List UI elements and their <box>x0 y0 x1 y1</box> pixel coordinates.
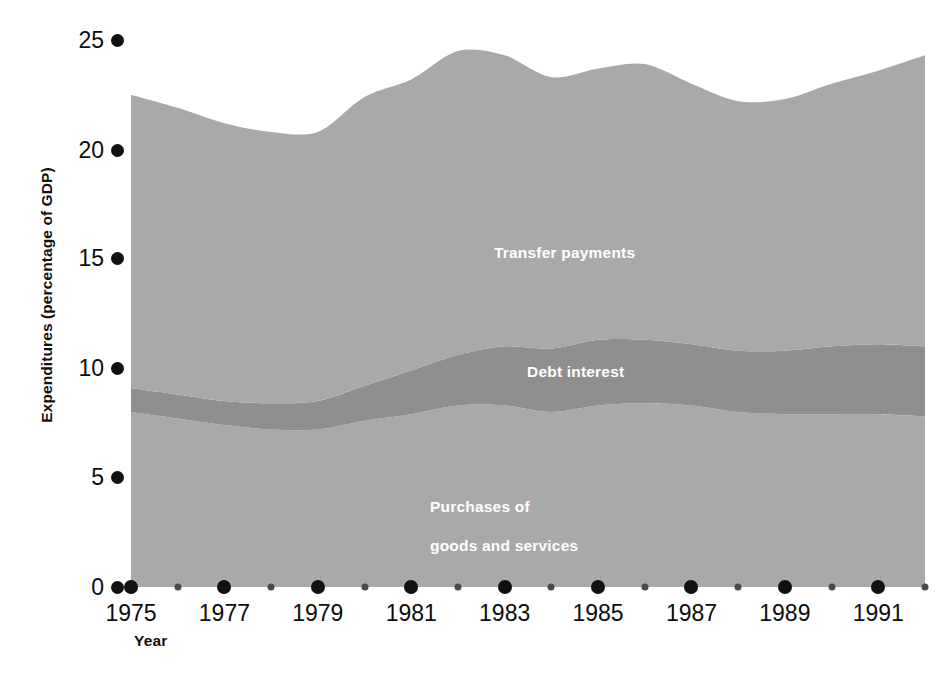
x-tick-label-1981: 1981 <box>386 600 437 627</box>
x-tick-label-1977: 1977 <box>199 600 250 627</box>
x-tick-minor-dot-icon-1988 <box>735 584 742 591</box>
x-tick-label-1979: 1979 <box>292 600 343 627</box>
x-tick-dot-icon-1991 <box>871 580 885 594</box>
x-tick-minor-dot-icon-1990 <box>828 584 835 591</box>
x-tick-minor-dot-icon-1992 <box>922 584 929 591</box>
x-tick-dot-icon-1983 <box>498 580 512 594</box>
x-tick-label-1983: 1983 <box>479 600 530 627</box>
x-axis: 197519771979198119831985198719891991 <box>0 0 946 673</box>
x-tick-dot-icon-1989 <box>778 580 792 594</box>
stacked-area-chart: 25 20 15 10 5 0 Expenditures (percentage… <box>0 0 946 673</box>
x-tick-label-1985: 1985 <box>572 600 623 627</box>
x-tick-dot-icon-1975 <box>124 580 138 594</box>
x-tick-label-1989: 1989 <box>759 600 810 627</box>
x-tick-dot-icon-1987 <box>684 580 698 594</box>
x-tick-dot-icon-1979 <box>311 580 325 594</box>
x-tick-minor-dot-icon-1980 <box>361 584 368 591</box>
x-tick-dot-icon-1977 <box>217 580 231 594</box>
x-tick-minor-dot-icon-1978 <box>268 584 275 591</box>
x-tick-dot-icon-1985 <box>591 580 605 594</box>
x-tick-dot-icon-1981 <box>404 580 418 594</box>
x-tick-minor-dot-icon-1984 <box>548 584 555 591</box>
x-tick-label-1987: 1987 <box>666 600 717 627</box>
x-axis-title: Year <box>134 632 168 650</box>
x-tick-label-1991: 1991 <box>853 600 904 627</box>
x-tick-minor-dot-icon-1986 <box>641 584 648 591</box>
x-tick-minor-dot-icon-1982 <box>454 584 461 591</box>
x-tick-minor-dot-icon-1976 <box>174 584 181 591</box>
x-tick-label-1975: 1975 <box>105 600 156 627</box>
